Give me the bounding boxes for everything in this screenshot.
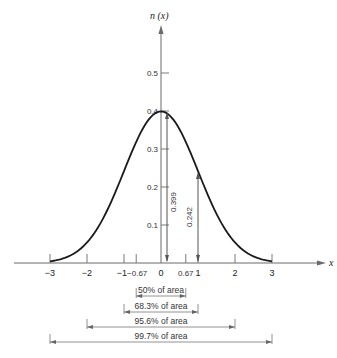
x-tick-label: 0.67 xyxy=(178,269,194,278)
x-axis-arrow-icon xyxy=(317,261,326,266)
arrow-right-icon xyxy=(229,325,235,329)
x-ticks: −3−2−1−0.6700.67123 xyxy=(45,254,275,278)
y-tick-label: 0.3 xyxy=(147,145,159,154)
x-tick-label: 3 xyxy=(269,268,274,278)
x-axis-label: x xyxy=(328,257,334,268)
one-sigma-measure: 0.242 xyxy=(185,172,200,262)
arrow-right-icon xyxy=(266,340,272,344)
arrow-down-icon xyxy=(196,255,200,262)
arrow-left-icon xyxy=(50,340,56,344)
arrow-down-icon xyxy=(165,255,169,262)
area-bracket: 68.3% of area xyxy=(124,301,198,314)
one-sigma-value-label: 0.242 xyxy=(185,206,194,227)
area-bracket-label: 68.3% of area xyxy=(135,301,188,311)
area-bracket-label: 99.7% of area xyxy=(135,331,188,341)
area-bracket: 99.7% of area xyxy=(50,331,272,344)
area-brackets: 50% of area68.3% of area95.6% of area99.… xyxy=(50,285,272,344)
peak-measure: 0.399 xyxy=(165,112,178,262)
arrow-left-icon xyxy=(124,310,130,314)
area-bracket-label: 95.6% of area xyxy=(135,316,188,326)
x-tick-label: 0 xyxy=(158,268,163,278)
area-bracket-label: 50% of area xyxy=(138,285,184,295)
peak-value-label: 0.399 xyxy=(169,191,178,212)
arrow-right-icon xyxy=(192,310,198,314)
x-tick-label: 2 xyxy=(232,268,237,278)
x-tick-label: −0.67 xyxy=(127,269,148,278)
y-tick-label: 0.2 xyxy=(147,183,159,192)
normal-distribution-chart: x n (x) 0.10.20.30.40.5 −3−2−1−0.6700.67… xyxy=(0,0,337,358)
area-bracket: 95.6% of area xyxy=(87,316,235,329)
y-axis-arrow-icon xyxy=(159,25,164,34)
x-tick-label: −2 xyxy=(82,268,92,278)
y-axis-label: n (x) xyxy=(150,10,169,22)
y-tick-label: 0.5 xyxy=(147,69,159,78)
y-tick-label: 0.1 xyxy=(147,221,159,230)
area-bracket: 50% of area xyxy=(136,285,186,298)
x-tick-label: −1 xyxy=(117,268,127,278)
x-tick-label: 1 xyxy=(195,268,200,278)
y-ticks: 0.10.20.30.40.5 xyxy=(147,69,169,230)
arrow-left-icon xyxy=(87,325,93,329)
x-tick-label: −3 xyxy=(45,268,55,278)
